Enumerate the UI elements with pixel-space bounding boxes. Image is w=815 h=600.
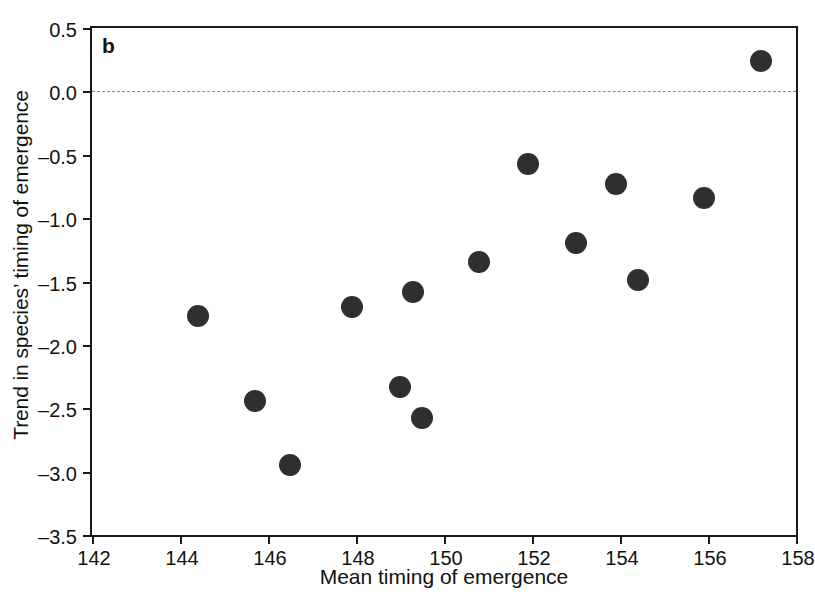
y-tick-label: –1.5 [38, 272, 77, 295]
data-point [389, 376, 411, 398]
x-tick: 158 [796, 535, 798, 544]
data-point [750, 50, 772, 72]
data-point [411, 407, 433, 429]
y-tick: –2.5 [83, 408, 92, 410]
x-axis-title: Mean timing of emergence [90, 565, 798, 589]
x-tick: 146 [268, 535, 270, 544]
y-tick-label: –2.5 [38, 399, 77, 422]
zero-reference-line [92, 91, 796, 92]
data-point [187, 305, 209, 327]
data-point [517, 153, 539, 175]
y-tick: –1.0 [83, 218, 92, 220]
y-tick: –3.5 [83, 535, 92, 537]
x-tick: 148 [356, 535, 358, 544]
y-tick: –1.5 [83, 282, 92, 284]
y-tick: –3.0 [83, 472, 92, 474]
x-tick: 144 [180, 535, 182, 544]
data-point [627, 269, 649, 291]
y-tick-label: –3.0 [38, 462, 77, 485]
y-tick-label: –3.5 [38, 526, 77, 549]
data-point [605, 173, 627, 195]
y-tick: 0.0 [83, 91, 92, 93]
x-tick: 152 [532, 535, 534, 544]
y-tick: –2.0 [83, 345, 92, 347]
x-tick: 142 [92, 535, 94, 544]
panel-letter: b [102, 34, 115, 58]
x-tick: 150 [444, 535, 446, 544]
data-point [402, 281, 424, 303]
y-tick: –0.5 [83, 155, 92, 157]
data-point [279, 454, 301, 476]
y-tick-label: 0.0 [49, 82, 77, 105]
data-point [244, 390, 266, 412]
y-tick-label: 0.5 [49, 19, 77, 42]
y-tick-label: –2.0 [38, 335, 77, 358]
y-tick-label: –1.0 [38, 209, 77, 232]
data-point [468, 251, 490, 273]
x-tick: 156 [708, 535, 710, 544]
y-tick-label: –0.5 [38, 145, 77, 168]
x-tick: 154 [620, 535, 622, 544]
data-point [341, 296, 363, 318]
data-point [693, 187, 715, 209]
plot-area: b 0.50.0–0.5–1.0–1.5–2.0–2.5–3.0–3.5 142… [90, 26, 798, 537]
data-point [565, 232, 587, 254]
y-tick: 0.5 [83, 28, 92, 30]
y-axis-title: Trend in species’ timing of emergence [4, 0, 38, 545]
